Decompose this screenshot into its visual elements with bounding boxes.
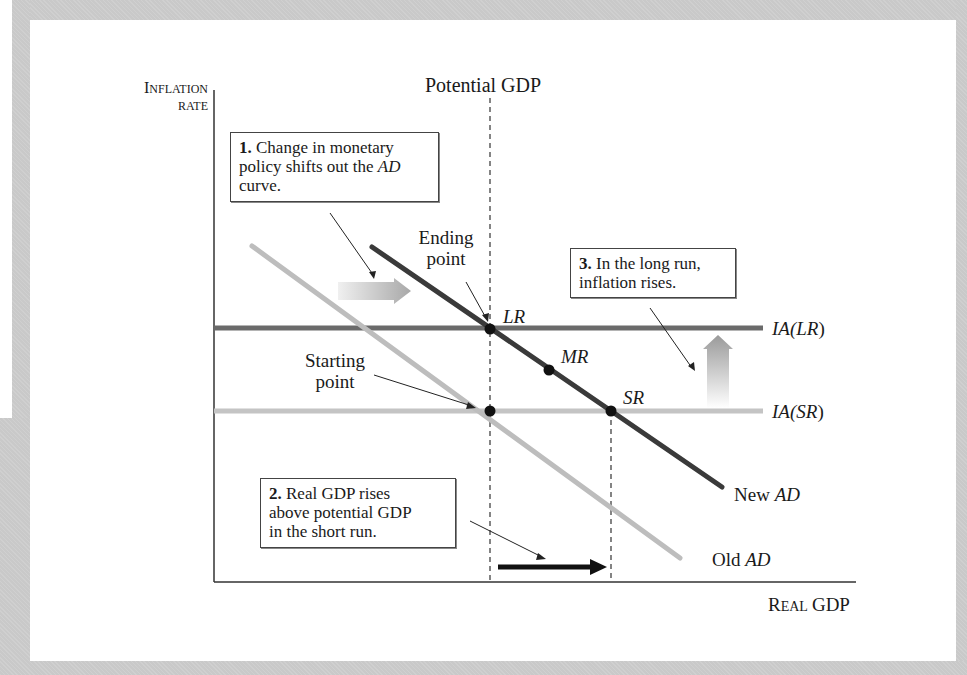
- ia-sr-label-suffix: ): [817, 401, 823, 422]
- callout-2-text-b: above potential GDP: [269, 503, 412, 522]
- callout-3-text-a: In the long run,: [596, 254, 701, 273]
- starting-point-line2: point: [315, 371, 354, 392]
- callout-1-text-c: curve.: [239, 176, 281, 195]
- callout-3-text-b: inflation rises.: [579, 273, 676, 292]
- callout-1-pointer: [330, 213, 374, 276]
- ending-point-line2: point: [426, 248, 465, 269]
- ia-lr-label: IA(LR): [772, 318, 825, 339]
- callout-2-number: 2.: [269, 484, 282, 503]
- callout-2-pointer: [470, 521, 542, 557]
- y-axis-label-rest: NFLATION: [149, 82, 208, 96]
- y-axis-label: INFLATION RATE: [140, 79, 208, 114]
- ia-sr-label-prefix: IA(: [772, 401, 796, 422]
- ending-point-label: Ending point: [406, 227, 486, 270]
- new-ad-label-prefix: New: [734, 484, 775, 505]
- callout-1-text-b-italic: AD: [378, 157, 401, 176]
- point-sr: [606, 406, 617, 417]
- gdp-rise-arrow-icon: [590, 559, 607, 575]
- point-sr-label: SR: [623, 387, 644, 408]
- callout-1: 1. Change in monetary policy shifts out …: [230, 132, 439, 202]
- callout-2-text-c: in the short run.: [269, 522, 377, 541]
- callout-1-number: 1.: [239, 138, 252, 157]
- point-mr-label: MR: [561, 346, 588, 367]
- potential-gdp-label: Potential GDP: [425, 74, 541, 96]
- ia-sr-label: IA(SR): [772, 401, 824, 422]
- ia-sr-label-inner: SR: [796, 401, 817, 422]
- point-mr: [544, 365, 555, 376]
- x-axis-label-word2: GDP: [812, 594, 850, 615]
- new-ad-label: New AD: [734, 484, 800, 505]
- callout-2-text-a: Real GDP rises: [286, 484, 390, 503]
- old-ad-label-prefix: Old: [712, 549, 745, 570]
- starting-point-line1: Starting: [305, 350, 365, 371]
- callout-3-pointer: [650, 308, 692, 368]
- x-axis-label: REAL GDP: [768, 594, 850, 615]
- point-lr-label: LR: [503, 306, 525, 327]
- callout-1-pointer-tip: [369, 271, 376, 279]
- new-ad-label-italic: AD: [775, 484, 800, 505]
- x-axis-label-rest: EAL: [781, 599, 808, 614]
- ad-shift-arrow-icon: [338, 278, 411, 304]
- ia-lr-label-suffix: ): [818, 318, 824, 339]
- old-ad-label: Old AD: [712, 549, 771, 570]
- callout-3-number: 3.: [579, 254, 592, 273]
- ending-point-line1: Ending: [419, 227, 474, 248]
- ia-lr-label-inner: LR: [796, 318, 818, 339]
- callout-3: 3. In the long run, inflation rises.: [570, 248, 736, 298]
- callout-2: 2. Real GDP rises above potential GDP in…: [260, 478, 456, 548]
- point-lr: [485, 324, 496, 335]
- callout-1-text-a: Change in monetary: [256, 138, 394, 157]
- y-axis-label-line2: RATE: [178, 99, 208, 113]
- old-ad-label-italic: AD: [745, 549, 770, 570]
- starting-point-label: Starting point: [290, 350, 380, 393]
- starting-point-pointer: [374, 375, 472, 406]
- ia-lr-label-prefix: IA(: [772, 318, 796, 339]
- x-axis-label-cap: R: [768, 594, 781, 615]
- point-starting: [485, 406, 496, 417]
- callout-2-pointer-tip: [536, 553, 546, 560]
- callout-1-text-b: policy shifts out the: [239, 157, 378, 176]
- inflation-rise-arrow-icon: [703, 335, 733, 408]
